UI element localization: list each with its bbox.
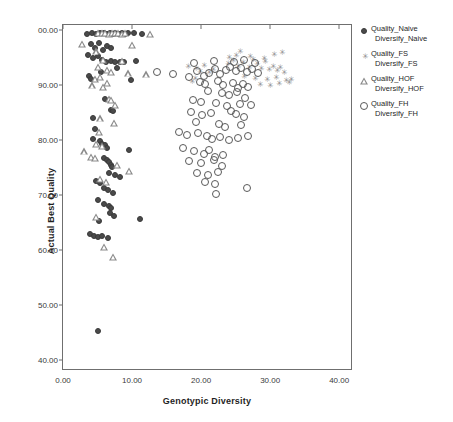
data-point-quality-naive — [84, 31, 90, 37]
data-point-quality-naive — [110, 31, 116, 37]
data-point-quality-fs — [241, 73, 246, 78]
data-point-quality-fs — [192, 75, 197, 80]
data-point-quality-naive — [89, 30, 95, 36]
data-point-quality-fs — [261, 55, 266, 60]
legend-label: Quality_NaiveDiversify_Naive — [371, 24, 427, 43]
data-point-quality-naive — [88, 76, 94, 82]
data-point-quality-fh — [193, 67, 201, 75]
data-point-quality-naive — [106, 170, 112, 176]
data-point-quality-fh — [225, 136, 233, 144]
data-point-quality-fh — [232, 110, 240, 118]
x-axis-title: Genotypic Diversity — [62, 396, 352, 406]
data-point-quality-fh — [203, 132, 211, 140]
data-point-quality-fs — [286, 80, 291, 85]
data-point-quality-naive — [88, 41, 94, 47]
data-point-quality-fh — [237, 121, 245, 129]
data-point-quality-fh — [244, 83, 252, 91]
data-point-quality-naive — [93, 31, 99, 37]
data-point-quality-naive — [104, 43, 110, 49]
data-point-quality-naive — [128, 77, 134, 83]
data-point-quality-fh — [214, 77, 222, 85]
data-point-quality-fh — [194, 129, 202, 137]
plot-area: 00.0090.0080.0070.0060.0050.0040.00 0.00… — [62, 24, 352, 370]
data-point-quality-naive — [108, 162, 114, 168]
data-point-quality-fh — [208, 135, 216, 143]
y-tick-mark — [59, 250, 63, 251]
data-point-quality-naive — [99, 57, 105, 63]
data-point-quality-fh — [204, 87, 212, 95]
data-point-quality-fh — [247, 101, 255, 109]
data-point-quality-fs — [274, 68, 279, 73]
data-point-quality-fs — [246, 64, 251, 69]
data-point-quality-naive — [117, 174, 123, 180]
data-point-quality-fh — [175, 128, 183, 136]
data-point-quality-fh — [210, 57, 218, 65]
data-point-quality-fh — [244, 132, 252, 140]
data-point-quality-hof — [118, 30, 126, 37]
data-point-quality-fh — [225, 91, 233, 99]
data-point-quality-naive — [99, 233, 105, 239]
data-point-quality-hof — [88, 82, 96, 89]
data-point-quality-hof — [125, 168, 133, 175]
data-point-quality-hof — [91, 154, 99, 161]
data-point-quality-naive — [105, 235, 111, 241]
data-point-quality-hof — [105, 95, 113, 102]
data-point-quality-fh — [169, 70, 177, 78]
data-point-quality-fh — [216, 70, 224, 78]
data-point-quality-fh — [230, 58, 238, 66]
data-point-quality-hof — [96, 175, 104, 182]
data-point-quality-naive — [102, 142, 108, 148]
data-point-quality-fs — [230, 58, 235, 63]
data-point-quality-naive — [97, 138, 103, 144]
data-point-quality-naive — [102, 96, 108, 102]
data-point-quality-fs — [258, 65, 263, 70]
data-point-quality-fs — [288, 76, 293, 81]
data-point-quality-naive — [95, 328, 101, 334]
data-point-quality-fs — [197, 69, 202, 74]
data-point-quality-fh — [204, 171, 212, 179]
data-point-quality-hof — [118, 58, 126, 65]
data-point-quality-fs — [250, 57, 255, 62]
data-point-quality-fh — [215, 120, 223, 128]
data-point-quality-hof — [142, 71, 150, 78]
data-point-quality-hof — [107, 69, 115, 76]
legend-label: Quality_FSDiversify_FS — [371, 49, 418, 68]
data-point-quality-fh — [185, 73, 193, 81]
data-point-quality-hof — [111, 30, 119, 37]
data-point-quality-naive — [121, 59, 127, 65]
data-point-quality-fh — [189, 96, 197, 104]
data-point-quality-fs — [277, 64, 282, 69]
data-point-quality-naive — [133, 58, 139, 64]
data-point-quality-naive — [116, 31, 122, 37]
data-point-quality-naive — [104, 157, 110, 163]
data-point-quality-fh — [190, 147, 198, 155]
data-point-quality-fs — [267, 83, 272, 88]
data-point-quality-hof — [98, 142, 106, 149]
data-point-quality-fh — [243, 68, 251, 76]
data-point-quality-hof — [100, 243, 108, 250]
data-point-quality-naive — [90, 136, 96, 142]
x-tick-mark — [201, 25, 202, 29]
data-point-quality-naive — [139, 31, 145, 37]
data-point-quality-fh — [198, 111, 206, 119]
data-point-quality-naive — [110, 190, 116, 196]
data-point-quality-fh — [233, 88, 241, 96]
data-point-quality-fs — [185, 63, 190, 68]
legend-marker-asterisk-icon — [358, 50, 371, 61]
data-point-quality-hof — [96, 115, 104, 122]
data-point-quality-naive — [104, 145, 110, 151]
data-point-quality-fs — [262, 59, 267, 64]
data-point-quality-hof — [94, 29, 102, 36]
data-point-quality-naive — [131, 30, 137, 36]
data-point-quality-naive — [90, 115, 96, 121]
data-point-quality-hof — [95, 128, 103, 135]
data-point-quality-fh — [241, 94, 249, 102]
data-point-quality-hof — [91, 75, 99, 82]
x-tick-label: 0.00 — [55, 369, 71, 385]
data-point-quality-naive — [114, 65, 120, 71]
data-point-quality-naive — [85, 52, 91, 58]
data-point-quality-fs — [270, 63, 275, 68]
data-point-quality-hof — [113, 161, 121, 168]
data-point-quality-hof — [121, 30, 129, 37]
data-point-quality-naive — [119, 30, 125, 36]
